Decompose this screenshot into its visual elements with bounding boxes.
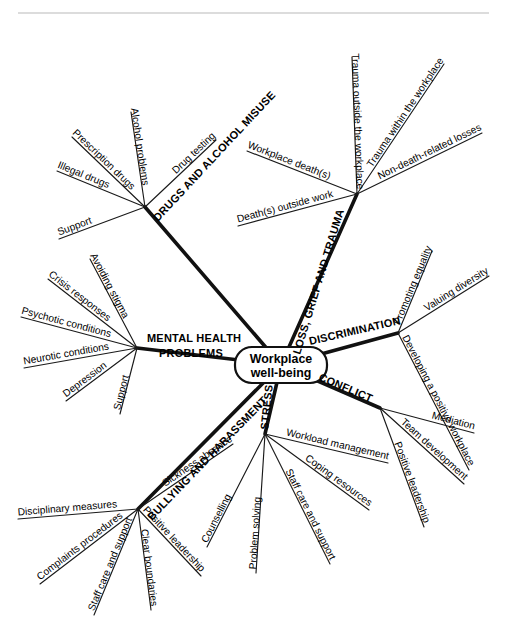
sub-label-stress-4: Counselling — [199, 492, 233, 545]
main-label-conflict: CONFLICT — [317, 371, 374, 404]
sub-label-loss-0: Workplace death(s) — [246, 139, 332, 181]
center-label-line1: Workplace — [250, 352, 313, 366]
sub-label-mental-5: Support — [111, 374, 131, 411]
sub-label-mental-4: Depression — [61, 359, 109, 399]
sub-label-discrimination-1: Valuing diversity — [422, 264, 491, 313]
sub-label-drugs-4: Support — [56, 215, 93, 238]
sub-branch-line-loss-0[interactable] — [247, 151, 357, 194]
sub-label-bullying-0: Sickness absence — [160, 433, 234, 489]
sub-label-conflict-2: Positive leadership — [392, 440, 432, 524]
center-node-label: Workplacewell-being — [250, 352, 313, 380]
sub-label-drugs-2: Alcohol problems — [129, 107, 151, 186]
sub-label-stress-3: Problem solving — [247, 496, 263, 569]
main-label-line2: PROBLEMS — [159, 347, 223, 359]
main-label-discrimination: DISCRIMINATION — [308, 314, 402, 347]
sub-label-stress-0: Workload management — [285, 427, 390, 462]
main-label-mental: MENTAL HEALTHPROBLEMS — [147, 332, 241, 359]
mindmap-svg: Workplacewell-beingDRUGS AND ALCOHOL MIS… — [0, 0, 507, 637]
main-branch-line-bullying[interactable] — [138, 365, 281, 509]
sub-label-loss-1: Trauma outside the workplace — [350, 53, 366, 190]
sub-label-stress-1: Coping resources — [303, 452, 374, 508]
sub-label-loss-4: Death(s) outside work — [236, 188, 335, 225]
mindmap-canvas: Workplacewell-beingDRUGS AND ALCOHOL MIS… — [0, 0, 507, 637]
sub-label-bullying-4: Clear boundaries — [139, 528, 160, 606]
center-label-line2: well-being — [250, 366, 312, 380]
main-label-line1: MENTAL HEALTH — [147, 332, 241, 344]
